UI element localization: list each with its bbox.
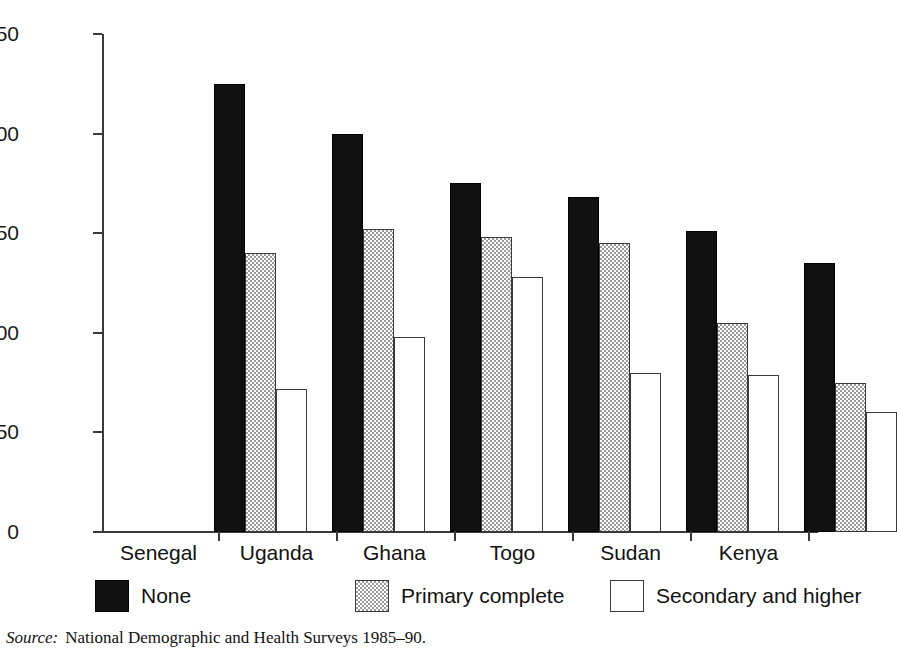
bar-uganda-none: [332, 134, 363, 532]
y-axis-tick-label: 50: [0, 421, 19, 442]
gray-hatch-swatch: [355, 580, 389, 612]
bar-uganda-secondary-and-higher: [394, 337, 425, 532]
x-axis-tick: [572, 531, 574, 541]
black-swatch: [95, 580, 129, 612]
bar-kenya-secondary-and-higher: [866, 412, 897, 532]
x-axis-tick: [454, 531, 456, 541]
chart-legend: NonePrimary completeSecondary and higher: [0, 578, 838, 618]
y-axis-tick-label: 250: [0, 23, 19, 44]
y-axis-tick-label: 150: [0, 222, 19, 243]
bar-sudan-secondary-and-higher: [748, 375, 779, 532]
y-axis-tick: [93, 531, 102, 533]
bar-kenya-none: [804, 263, 835, 532]
source-text: National Demographic and Health Surveys …: [65, 628, 426, 647]
bar-togo-primary-complete: [599, 243, 630, 532]
x-axis-tick: [218, 531, 220, 541]
white-swatch: [610, 580, 644, 612]
bar-ghana-primary-complete: [481, 237, 512, 532]
legend-label: Secondary and higher: [656, 584, 861, 608]
source-note: Source:National Demographic and Health S…: [6, 628, 826, 648]
legend-label: Primary complete: [401, 584, 564, 608]
chart-title-fragment: [14, 0, 574, 5]
bar-ghana-none: [450, 183, 481, 532]
bar-kenya-primary-complete: [835, 383, 866, 532]
bar-senegal-secondary-and-higher: [276, 389, 307, 532]
bar-togo-secondary-and-higher: [630, 373, 661, 532]
bar-ghana-secondary-and-higher: [512, 277, 543, 532]
bar-senegal-primary-complete: [245, 253, 276, 532]
bar-uganda-primary-complete: [363, 229, 394, 532]
y-axis-tick: [93, 332, 102, 334]
y-axis-tick: [93, 33, 102, 35]
x-axis-label-kenya: Kenya: [679, 541, 819, 565]
y-axis-tick-label: 0: [0, 521, 19, 542]
x-axis-tick: [336, 531, 338, 541]
y-axis-tick: [93, 431, 102, 433]
plot-area: [102, 34, 816, 532]
source-label: Source:: [6, 628, 58, 647]
legend-entry-secondary-and-higher: Secondary and higher: [610, 578, 861, 614]
y-axis-tick: [93, 232, 102, 234]
x-axis-tick: [690, 531, 692, 541]
bar-sudan-none: [686, 231, 717, 532]
legend-entry-none: None: [95, 578, 191, 614]
x-axis-tick: [808, 531, 810, 541]
bar-sudan-primary-complete: [717, 323, 748, 532]
y-axis-tick-label: 100: [0, 322, 19, 343]
legend-entry-primary-complete: Primary complete: [355, 578, 564, 614]
bar-senegal-none: [214, 84, 245, 532]
y-axis-tick: [93, 133, 102, 135]
legend-label: None: [141, 584, 191, 608]
bar-togo-none: [568, 197, 599, 532]
y-axis-tick-label: 200: [0, 123, 19, 144]
